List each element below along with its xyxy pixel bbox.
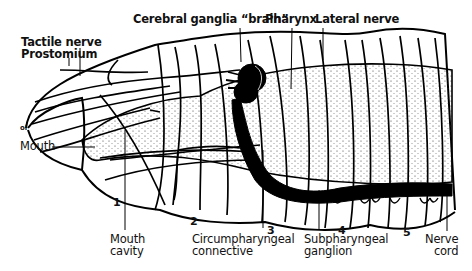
label-circumpharyngeal-connective: Circumpharyngeal connective	[192, 233, 294, 257]
label-subpharyngeal-line2: ganglion	[304, 245, 388, 257]
label-tip-mark: ol	[20, 124, 27, 132]
label-lateral-nerve: Lateral nerve	[315, 13, 399, 25]
label-prostomium: Prostomium	[21, 48, 97, 60]
label-nerve-cord: Nerve cord	[425, 233, 458, 257]
segment-number-2: 2	[190, 215, 198, 228]
label-circumpharyngeal-line2: connective	[192, 245, 294, 257]
label-mouth-cavity-line2: cavity	[110, 245, 145, 257]
label-subpharyngeal-ganglion: Subpharyngeal ganglion	[304, 233, 388, 257]
label-pharynx: Pharynx	[265, 13, 317, 25]
label-mouth: Mouth	[20, 140, 55, 152]
segment-number-5: 5	[403, 226, 411, 239]
segment-number-1: 1	[113, 196, 121, 209]
label-nerve-cord-line2: cord	[425, 245, 458, 257]
label-mouth-cavity: Mouth cavity	[110, 233, 145, 257]
